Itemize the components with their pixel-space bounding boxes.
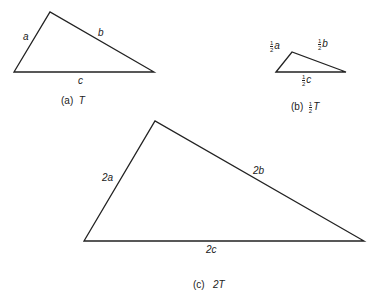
side-label-2b: 2b	[253, 166, 264, 176]
side-label-c: c	[78, 76, 83, 86]
triangle-T	[14, 12, 154, 72]
caption-a-tag: (a)	[61, 95, 73, 106]
caption-c: (c) 2T	[193, 280, 225, 290]
side-label-half-c: 12c	[302, 74, 311, 87]
caption-b: (b) 12T	[291, 101, 319, 114]
triangle-2T	[84, 121, 364, 241]
side-label-half-b: 12b	[318, 38, 328, 51]
caption-c-name: 2T	[213, 279, 225, 290]
side-label-2a: 2a	[102, 173, 113, 183]
caption-a-name: T	[79, 95, 85, 106]
side-label-half-a: 12a	[270, 40, 280, 53]
side-label-a: a	[23, 32, 29, 42]
caption-b-tag: (b)	[291, 101, 303, 112]
caption-a: (a) T	[61, 96, 85, 106]
caption-c-tag: (c)	[193, 279, 205, 290]
side-label-b: b	[98, 28, 104, 38]
side-label-2c: 2c	[206, 245, 217, 255]
triangle-half-T	[276, 52, 346, 72]
triangles-canvas	[0, 0, 372, 302]
caption-b-name: T	[313, 101, 319, 112]
